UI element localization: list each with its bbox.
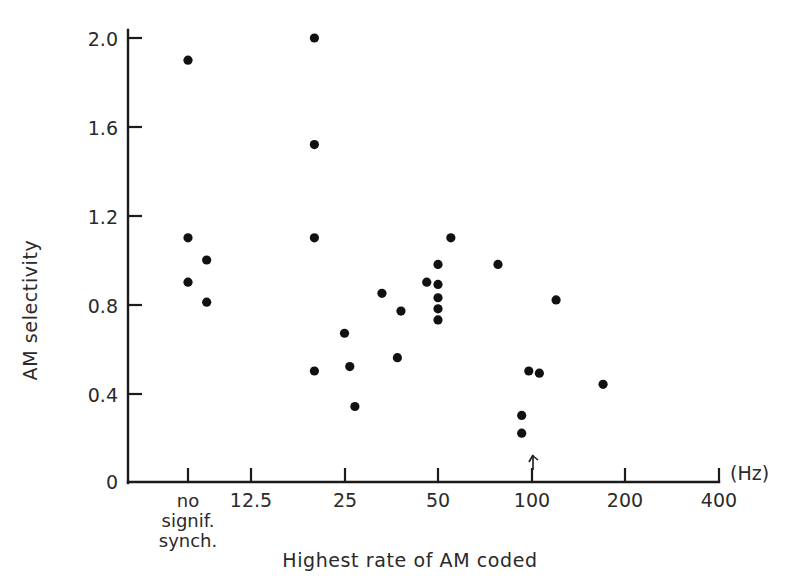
- y-tick-label-1.6: 1.6: [88, 117, 118, 139]
- data-point: [310, 233, 319, 242]
- data-point: [433, 304, 442, 313]
- x-tick-label-no: no: [177, 490, 199, 511]
- data-point: [310, 366, 319, 375]
- x-tick-label-400: 400: [701, 489, 737, 511]
- data-point: [422, 278, 431, 287]
- data-point: [183, 278, 192, 287]
- y-tick-label-0.8: 0.8: [88, 295, 118, 317]
- data-point: [524, 366, 533, 375]
- data-point: [433, 315, 442, 324]
- x-axis-unit-label: (Hz): [730, 462, 769, 484]
- data-point: [446, 233, 455, 242]
- data-point: [310, 140, 319, 149]
- data-point: [202, 255, 211, 264]
- x-tick-label-25: 25: [333, 489, 357, 511]
- x-tick-label-50: 50: [426, 489, 450, 511]
- data-point: [433, 260, 442, 269]
- data-point: [433, 280, 442, 289]
- scatter-plot: 2.0 1.6 1.2 0.8 0.4 0 no signif. synch. …: [0, 0, 795, 587]
- x-tick-label-signif: signif.: [162, 510, 215, 531]
- figure-container: 2.0 1.6 1.2 0.8 0.4 0 no signif. synch. …: [0, 0, 795, 587]
- x-tick-label-12.5: 12.5: [230, 489, 272, 511]
- y-axis-title: AM selectivity: [19, 240, 41, 381]
- y-tick-label-0.4: 0.4: [88, 384, 118, 406]
- data-point: [340, 329, 349, 338]
- y-tick-label-2.0: 2.0: [88, 28, 118, 50]
- data-points-layer: [183, 33, 607, 437]
- data-point: [493, 260, 502, 269]
- data-point: [350, 402, 359, 411]
- x-tick-label-synch: synch.: [159, 530, 217, 551]
- y-tick-label-0: 0: [106, 471, 118, 493]
- data-point: [393, 353, 402, 362]
- data-point: [517, 411, 526, 420]
- x-axis-ticks: [188, 468, 719, 482]
- y-axis-ticks: [128, 38, 142, 394]
- data-point: [598, 380, 607, 389]
- data-point: [310, 33, 319, 42]
- x-axis-title: Highest rate of AM coded: [282, 549, 537, 571]
- data-point: [396, 306, 405, 315]
- y-tick-label-1.2: 1.2: [88, 206, 118, 228]
- x-tick-label-200: 200: [607, 489, 643, 511]
- x-tick-label-100: 100: [514, 489, 550, 511]
- arrow-marker-icon: [529, 455, 538, 470]
- data-point: [183, 233, 192, 242]
- data-point: [517, 429, 526, 438]
- data-point: [183, 56, 192, 65]
- data-point: [377, 289, 386, 298]
- data-point: [345, 362, 354, 371]
- data-point: [551, 295, 560, 304]
- data-point: [202, 298, 211, 307]
- data-point: [535, 369, 544, 378]
- data-point: [433, 293, 442, 302]
